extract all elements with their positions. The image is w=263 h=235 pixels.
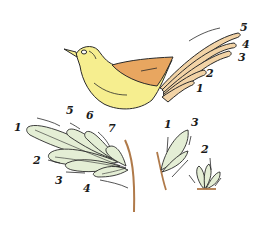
label-leaf-3: 3: [55, 174, 63, 187]
label-sprig-1: 1: [164, 118, 172, 131]
label-leaf-1: 1: [14, 121, 22, 134]
label-sprig-3: 3: [191, 116, 199, 129]
label-leaf-4: 4: [83, 182, 91, 195]
drawing-canvas: 5 4 3 2 1 1 2 3 4 5 6 7 1 3 2: [0, 0, 263, 235]
label-leaf-6: 6: [86, 109, 94, 122]
leafy-branch: [27, 125, 135, 212]
sprig-right-leaf-1: [197, 166, 205, 189]
bird: [64, 33, 240, 109]
sprig-right: [197, 164, 220, 189]
sprig-left: [157, 130, 188, 190]
label-leaf-7: 7: [108, 122, 116, 135]
label-leaf-5: 5: [66, 104, 74, 117]
label-sprig-2: 2: [200, 143, 209, 156]
branch-stem: [125, 140, 134, 212]
label-leaf-2: 2: [32, 154, 41, 167]
illustration: 5 4 3 2 1 1 2 3 4 5 6 7 1 3 2: [0, 0, 263, 235]
bird-eye: [81, 50, 86, 54]
label-tail-1: 1: [196, 82, 204, 95]
label-tail-2: 2: [205, 67, 214, 80]
bird-beak: [64, 49, 77, 57]
label-tail-4: 4: [242, 38, 250, 51]
label-tail-3: 3: [238, 51, 246, 64]
label-tail-5: 5: [240, 21, 248, 34]
